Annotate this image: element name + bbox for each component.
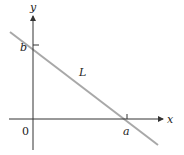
y-intercept-label: b [20, 41, 27, 54]
line-L [10, 32, 158, 145]
y-axis-label: y [29, 1, 37, 14]
x-axis-label: x [167, 113, 174, 126]
x-intercept-label: a [123, 125, 130, 138]
diagram-canvas: y x b L a 0 [0, 0, 184, 155]
line-label: L [78, 66, 86, 79]
origin-label: 0 [22, 125, 29, 138]
